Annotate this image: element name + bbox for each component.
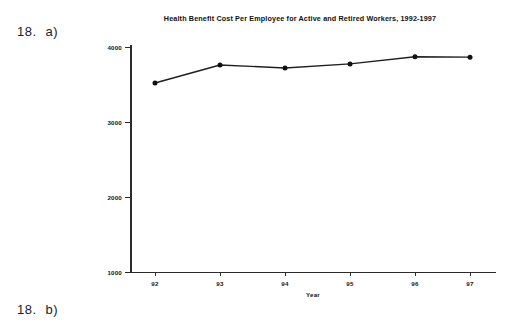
x-tick-mark-96 — [415, 272, 416, 276]
data-point-93 — [218, 63, 223, 68]
x-tick-label-93: 93 — [208, 280, 232, 287]
data-point-97 — [468, 55, 473, 60]
data-point-92 — [153, 81, 158, 86]
x-tick-mark-97 — [470, 272, 471, 276]
data-point-96 — [413, 54, 418, 59]
y-tick-mark-1000 — [125, 272, 130, 273]
y-tick-label-2000: 2000 — [96, 194, 122, 201]
x-tick-label-94: 94 — [273, 280, 297, 287]
exercise-number-b: 18. — [17, 302, 37, 317]
y-tick-label-3000: 3000 — [96, 119, 122, 126]
x-tick-mark-93 — [220, 272, 221, 276]
x-tick-label-95: 95 — [338, 280, 362, 287]
x-tick-label-96: 96 — [403, 280, 427, 287]
y-tick-label-4000: 4000 — [96, 44, 122, 51]
x-tick-label-92: 92 — [143, 280, 167, 287]
series-line — [155, 57, 470, 83]
data-series-svg — [130, 47, 495, 272]
exercise-letter-b: b) — [46, 302, 59, 317]
plot-area — [130, 47, 495, 272]
x-tick-mark-92 — [155, 272, 156, 276]
x-tick-mark-95 — [350, 272, 351, 276]
data-point-95 — [348, 61, 353, 66]
x-axis-title: Year — [130, 291, 496, 298]
exercise-label-part-b: 18.b) — [17, 302, 58, 317]
x-tick-label-97: 97 — [458, 280, 482, 287]
line-chart-figure: Health Benefit Cost Per Employee for Act… — [0, 0, 519, 300]
y-tick-label-1000: 1000 — [96, 269, 122, 276]
chart-title: Health Benefit Cost Per Employee for Act… — [135, 14, 465, 23]
x-tick-mark-94 — [285, 272, 286, 276]
data-point-94 — [283, 66, 288, 71]
